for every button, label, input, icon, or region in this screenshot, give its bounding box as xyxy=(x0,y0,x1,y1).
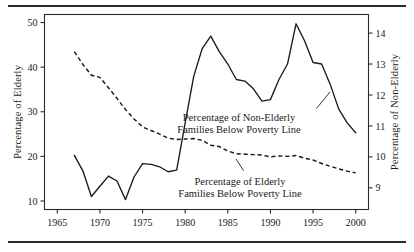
right-axis-title: Percentage of Non-Elderly xyxy=(389,53,400,170)
left-axis-tick-labels: 1020304050 xyxy=(28,17,38,206)
line-chart: 1020304050 91011121314 19651970197519801… xyxy=(0,0,414,252)
x-tick-label-1985: 1985 xyxy=(218,217,238,228)
x-tick-label-1965: 1965 xyxy=(47,217,67,228)
right-tick-label-9: 9 xyxy=(376,182,381,193)
left-axis-title: Percentage of Elderly xyxy=(12,64,23,159)
left-tick-label-30: 30 xyxy=(28,106,38,117)
left-tick-label-10: 10 xyxy=(28,196,38,207)
x-tick-label-2000: 2000 xyxy=(346,217,366,228)
left-axis-ticks xyxy=(41,23,45,201)
annotation-leader-elderly xyxy=(236,159,244,171)
right-tick-label-12: 12 xyxy=(376,90,386,101)
right-axis-tick-labels: 91011121314 xyxy=(376,28,386,194)
right-axis-ticks xyxy=(369,33,373,188)
x-tick-label-1970: 1970 xyxy=(90,217,110,228)
right-tick-label-13: 13 xyxy=(376,59,386,70)
figure-container: 1020304050 91011121314 19651970197519801… xyxy=(0,0,414,252)
x-tick-label-1990: 1990 xyxy=(260,217,280,228)
x-axis-ticks xyxy=(57,210,355,214)
annotation-non-elderly-line2: Families Below Poverty Line xyxy=(177,124,301,135)
annotation-non-elderly: Percentage of Non-Elderly Families Below… xyxy=(177,112,301,135)
annotation-elderly-line2: Families Below Poverty Line xyxy=(178,188,302,199)
annotation-leader-non-elderly xyxy=(317,92,331,109)
left-tick-label-20: 20 xyxy=(28,151,38,162)
annotation-non-elderly-line1: Percentage of Non-Elderly xyxy=(183,112,296,123)
annotation-elderly-line1: Percentage of Elderly xyxy=(195,176,287,187)
left-tick-label-50: 50 xyxy=(28,17,38,28)
x-tick-label-1975: 1975 xyxy=(133,217,153,228)
right-tick-label-11: 11 xyxy=(376,121,386,132)
x-axis-tick-labels: 19651970197519801985199019952000 xyxy=(47,217,365,228)
right-tick-label-14: 14 xyxy=(376,28,386,39)
x-tick-label-1980: 1980 xyxy=(175,217,195,228)
x-tick-label-1995: 1995 xyxy=(303,217,323,228)
left-tick-label-40: 40 xyxy=(28,62,38,73)
right-tick-label-10: 10 xyxy=(376,151,386,162)
annotation-elderly: Percentage of Elderly Families Below Pov… xyxy=(178,176,302,199)
